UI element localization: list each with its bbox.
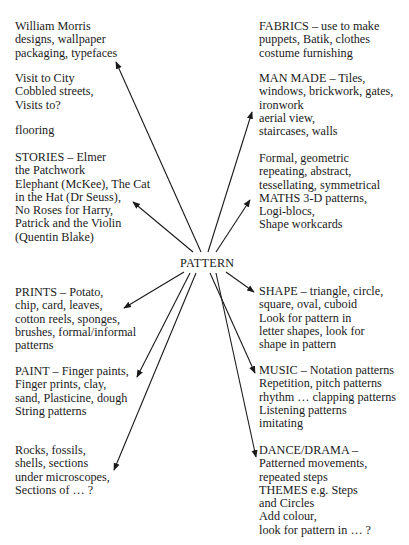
node-line: Finger prints, clay, (15, 378, 129, 391)
node-line: Formal, geometric (259, 152, 380, 165)
node-line: Listening patterns (259, 404, 396, 417)
node-line: Visit to City (15, 72, 94, 85)
node-line: Shape workcards (259, 218, 380, 231)
node-fabrics: FABRICS – use to make puppets, Batik, cl… (259, 20, 379, 60)
node-line: Visits to? (15, 99, 94, 112)
node-line: imitating (259, 417, 396, 430)
node-line: repeated steps (259, 471, 371, 484)
node-line: Rocks, fossils, (15, 444, 110, 457)
node-line: flooring (15, 124, 54, 137)
node-line: STORIES – Elmer (15, 151, 150, 164)
arrow-to-shape (226, 272, 254, 292)
node-line: cotton reels, sponges, (15, 313, 136, 326)
arrow-to-dance (216, 273, 256, 457)
node-line: THEMES e.g. Steps (259, 484, 371, 497)
node-line: the Patchwork (15, 164, 150, 177)
node-line: Repetition, pitch patterns (259, 377, 396, 390)
node-line: shells, sections (15, 457, 110, 470)
node-line: FABRICS – use to make (259, 20, 379, 33)
node-line: square, oval, cuboid (259, 298, 383, 311)
node-line: MUSIC – Notation patterns (259, 364, 396, 377)
node-prints: PRINTS – Potato, chip, card, leaves, cot… (15, 286, 136, 352)
node-line: designs, wallpaper (15, 33, 117, 46)
node-line: patterns (15, 339, 136, 352)
arrow-to-paint (137, 273, 190, 377)
node-man-made: MAN MADE – Tiles, windows, brickwork, ga… (259, 72, 393, 138)
node-line: ironwork (259, 99, 393, 112)
node-line: and Circles (259, 497, 371, 510)
node-line: MAN MADE – Tiles, (259, 72, 393, 85)
node-shape: SHAPE – triangle, circle, square, oval, … (259, 285, 383, 351)
node-line: Cobbled streets, (15, 85, 94, 98)
node-line: chip, card, leaves, (15, 299, 136, 312)
node-line: Elephant (McKee), The Cat (15, 178, 150, 191)
node-line: Add colour, (259, 510, 371, 523)
node-line: DANCE/DRAMA – (259, 444, 371, 457)
node-line: Look for pattern in (259, 312, 383, 325)
node-line: look for pattern in … ? (259, 524, 371, 537)
node-line: brushes, formal/informal (15, 326, 136, 339)
node-line: tessellating, symmetrical (259, 179, 380, 192)
arrow-to-maths (216, 200, 250, 252)
node-line: SHAPE – triangle, circle, (259, 285, 383, 298)
node-line: staircases, walls (259, 125, 393, 138)
node-flooring: flooring (15, 124, 54, 137)
node-line: in the Hat (Dr Seuss), (15, 191, 150, 204)
node-maths: Formal, geometric repeating, abstract, t… (259, 152, 380, 232)
node-line: packaging, typefaces (15, 47, 117, 60)
node-line: Sections of … ? (15, 484, 110, 497)
node-line: letter shapes, look for (259, 325, 383, 338)
node-music: MUSIC – Notation patterns Repetition, pi… (259, 364, 396, 430)
node-line: MATHS 3-D patterns, (259, 192, 380, 205)
node-line: String patterns (15, 405, 129, 418)
node-line: puppets, Batik, clothes (259, 33, 379, 46)
node-line: rhythm … clapping patterns (259, 391, 396, 404)
node-line: aerial view, (259, 112, 393, 125)
node-paint: PAINT – Finger paints, Finger prints, cl… (15, 365, 129, 418)
node-stories: STORIES – Elmer the Patchwork Elephant (… (15, 151, 150, 244)
node-rocks: Rocks, fossils, shells, sections under m… (15, 444, 110, 497)
node-line: shape in pattern (259, 338, 383, 351)
node-line: Patterned movements, (259, 457, 371, 470)
node-line: No Roses for Harry, (15, 204, 150, 217)
node-line: Patrick and the Violin (15, 217, 150, 230)
node-line: costume furnishing (259, 47, 379, 60)
node-line: windows, brickwork, gates, (259, 85, 393, 98)
node-visit-city: Visit to City Cobbled streets, Visits to… (15, 72, 94, 112)
node-line: PAINT – Finger paints, (15, 365, 129, 378)
node-line: under microscopes, (15, 471, 110, 484)
node-line: Logi-blocs, (259, 205, 380, 218)
node-line: William Morris (15, 20, 117, 33)
node-william-morris: William Morris designs, wallpaper packag… (15, 20, 117, 60)
node-dance-drama: DANCE/DRAMA – Patterned movements, repea… (259, 444, 371, 537)
node-line: PRINTS – Potato, (15, 286, 136, 299)
node-line: repeating, abstract, (259, 165, 380, 178)
node-line: (Quentin Blake) (15, 231, 150, 244)
center-node-pattern: PATTERN (180, 256, 234, 271)
node-line: sand, Plasticine, dough (15, 392, 129, 405)
